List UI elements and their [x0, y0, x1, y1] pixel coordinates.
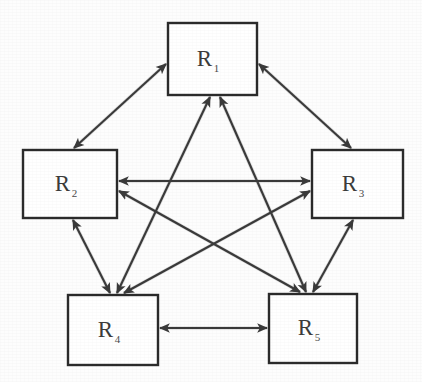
node-box-r3[interactable] [312, 150, 403, 218]
node-r5[interactable]: R5 [269, 294, 357, 363]
node-r3[interactable]: R3 [312, 150, 403, 218]
edge-r2-r4[interactable]: R2 to R4 [73, 220, 110, 293]
graph-svg: R1 to R2R1 to R3R1 to R4R1 to R5R2 to R3… [0, 0, 422, 382]
node-r2[interactable]: R2 [23, 150, 117, 218]
node-layer: R1R2R3R4R5 [23, 23, 403, 365]
edge-r1-r3[interactable]: R1 to R3 [259, 64, 351, 148]
edge-r3-r5[interactable]: R3 to R5 [313, 220, 353, 292]
node-subscript-r5: 5 [315, 331, 321, 343]
node-subscript-r1: 1 [214, 62, 220, 74]
edge-r1-r2[interactable]: R1 to R2 [74, 64, 166, 148]
edge-r2-r5[interactable]: R2 to R5 [119, 191, 300, 292]
edge-r1-r5[interactable]: R1 to R5 [220, 97, 306, 292]
node-r4[interactable]: R4 [68, 295, 158, 365]
node-subscript-r2: 2 [72, 187, 78, 199]
diagram-canvas: R1 to R2R1 to R3R1 to R4R1 to R5R2 to R3… [0, 0, 422, 382]
node-subscript-r3: 3 [359, 187, 365, 199]
node-r1[interactable]: R1 [168, 23, 257, 95]
node-box-r1[interactable] [168, 23, 257, 95]
node-subscript-r4: 4 [115, 333, 121, 345]
edge-r1-r4[interactable]: R1 to R4 [117, 97, 210, 293]
